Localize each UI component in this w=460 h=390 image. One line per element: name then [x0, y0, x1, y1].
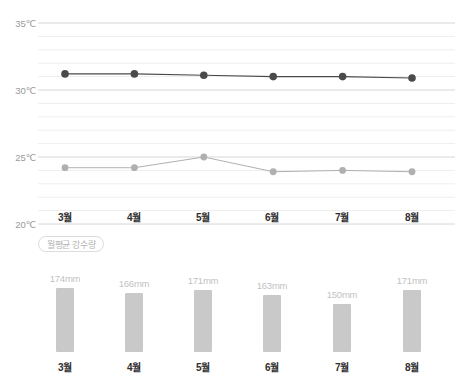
high-temperature-series: [61, 70, 416, 82]
bar-month-label: 3월: [35, 359, 95, 374]
data-point-high-temperature-7월[interactable]: [339, 73, 347, 81]
bar-rect[interactable]: [403, 290, 421, 352]
precipitation-bar-chart: 174mm 3월 166mm 4월 171mm 5월 163mm 6월 150m…: [0, 258, 460, 390]
bar-rect[interactable]: [194, 290, 212, 352]
y-tick-label-20: 20℃: [2, 219, 36, 230]
rainfall-legend-badge: 월평균 강수량: [38, 236, 104, 252]
bar-group-month-5[interactable]: 171mm 5월: [173, 258, 233, 390]
temperature-line-chart: 35℃ 30℃ 25℃ 20℃ 3월 4월 5월 6월 7월 8월: [0, 0, 460, 232]
data-point-high-temperature-3월[interactable]: [61, 70, 69, 78]
x-label-month-3: 3월: [43, 209, 87, 224]
bar-month-label: 8월: [382, 359, 442, 374]
x-label-month-8: 8월: [390, 209, 434, 224]
data-point-high-temperature-8월[interactable]: [408, 74, 416, 82]
y-tick-label-25: 25℃: [2, 152, 36, 163]
bar-value-label: 174mm: [35, 273, 95, 284]
data-point-high-temperature-5월[interactable]: [200, 71, 208, 79]
bar-value-label: 150mm: [312, 289, 372, 300]
data-point-high-temperature-6월[interactable]: [269, 73, 277, 81]
bar-month-label: 7월: [312, 359, 372, 374]
minor-gridlines: [38, 36, 455, 210]
bar-group-month-7[interactable]: 150mm 7월: [312, 258, 372, 390]
bar-rect[interactable]: [125, 293, 143, 352]
bar-group-month-4[interactable]: 166mm 4월: [104, 258, 164, 390]
bar-month-label: 6월: [242, 359, 302, 374]
bar-value-label: 171mm: [382, 275, 442, 286]
bar-month-label: 5월: [173, 359, 233, 374]
bar-value-label: 166mm: [104, 278, 164, 289]
data-point-low-temperature-5월[interactable]: [200, 154, 207, 161]
weather-chart-page: 35℃ 30℃ 25℃ 20℃ 3월 4월 5월 6월 7월 8월 월평균 강수…: [0, 0, 460, 390]
bar-month-label: 4월: [104, 359, 164, 374]
bar-group-month-8[interactable]: 171mm 8월: [382, 258, 442, 390]
major-gridlines: [38, 23, 455, 224]
data-point-high-temperature-4월[interactable]: [131, 70, 139, 78]
data-point-low-temperature-3월[interactable]: [62, 164, 69, 171]
x-label-month-6: 6월: [250, 209, 294, 224]
y-tick-label-30: 30℃: [2, 85, 36, 96]
bar-value-label: 171mm: [173, 275, 233, 286]
data-point-low-temperature-4월[interactable]: [131, 164, 138, 171]
bar-rect[interactable]: [333, 304, 351, 352]
x-label-month-5: 5월: [181, 209, 225, 224]
temperature-plot-svg: [0, 0, 460, 232]
bar-group-month-3[interactable]: 174mm 3월: [35, 258, 95, 390]
data-point-low-temperature-7월[interactable]: [339, 167, 346, 174]
rainfall-legend-label: 월평균 강수량: [47, 238, 95, 251]
y-tick-label-35: 35℃: [2, 18, 36, 29]
bar-rect[interactable]: [56, 288, 74, 352]
data-point-low-temperature-8월[interactable]: [409, 168, 416, 175]
data-point-low-temperature-6월[interactable]: [270, 168, 277, 175]
x-label-month-7: 7월: [320, 209, 364, 224]
bar-group-month-6[interactable]: 163mm 6월: [242, 258, 302, 390]
bar-rect[interactable]: [263, 295, 281, 352]
x-label-month-4: 4월: [112, 209, 156, 224]
bar-value-label: 163mm: [242, 280, 302, 291]
